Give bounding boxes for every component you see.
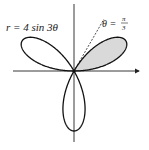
equation-label: r = 4 sin 3θ [6, 21, 59, 33]
polar-rose-diagram: r = 4 sin 3θ θ = π 3 [0, 0, 149, 150]
angle-denominator: 3 [121, 24, 126, 32]
angle-numerator: π [122, 15, 126, 23]
angle-label: θ = [102, 18, 116, 29]
